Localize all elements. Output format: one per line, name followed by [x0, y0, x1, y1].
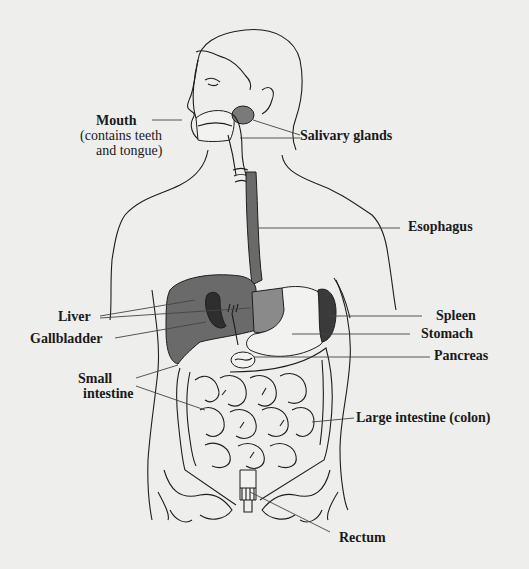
anus	[244, 500, 252, 512]
small-intestine	[195, 374, 314, 469]
label-small-intestine-2: intestine	[83, 386, 134, 402]
label-spleen: Spleen	[436, 308, 476, 324]
leader-large-intestine	[312, 418, 354, 422]
label-small-intestine-1: Small	[78, 371, 112, 387]
label-esophagus: Esophagus	[408, 219, 473, 235]
label-pancreas: Pancreas	[434, 348, 488, 364]
eye	[205, 78, 220, 85]
salivary-gland	[232, 106, 254, 124]
label-mouth-note-2: and tongue)	[96, 143, 162, 159]
label-mouth: Mouth	[96, 113, 136, 129]
torso-right	[336, 280, 350, 510]
anatomy-illustration	[0, 0, 529, 569]
esophagus	[246, 172, 262, 285]
hair-line	[196, 51, 251, 90]
label-liver: Liver	[58, 309, 91, 325]
label-mouth-note-1: (contains teeth	[80, 128, 162, 144]
leader-small-intestine	[136, 365, 205, 410]
digestive-system-diagram: Mouth (contains teeth and tongue) Saliva…	[0, 0, 529, 569]
ear	[262, 88, 273, 114]
label-gallbladder: Gallbladder	[30, 331, 102, 347]
label-stomach: Stomach	[421, 326, 473, 342]
label-large-intestine: Large intestine (colon)	[356, 410, 491, 426]
label-rectum: Rectum	[339, 530, 386, 546]
label-salivary-glands: Salivary glands	[300, 128, 392, 144]
leader-rectum	[250, 492, 330, 532]
torso-left	[148, 290, 159, 520]
